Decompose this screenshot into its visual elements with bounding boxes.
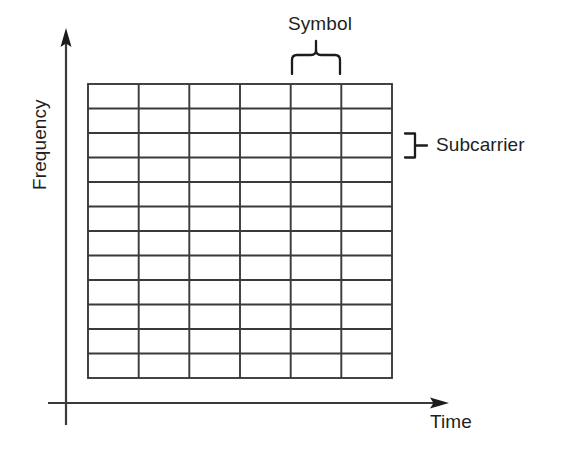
symbol-brace [292, 41, 340, 74]
subcarrier-bracket [405, 134, 427, 158]
time-axis-label: Time [430, 412, 472, 431]
symbol-annotation-label: Symbol [288, 14, 352, 33]
diagram-vector-layer [0, 0, 569, 450]
resource-grid [88, 84, 392, 378]
axes-group [48, 28, 449, 425]
frequency-axis-label: Frequency [30, 99, 49, 190]
subcarrier-annotation-label: Subcarrier [436, 135, 525, 154]
diagram-canvas: Frequency Time Symbol Subcarrier [0, 0, 569, 450]
